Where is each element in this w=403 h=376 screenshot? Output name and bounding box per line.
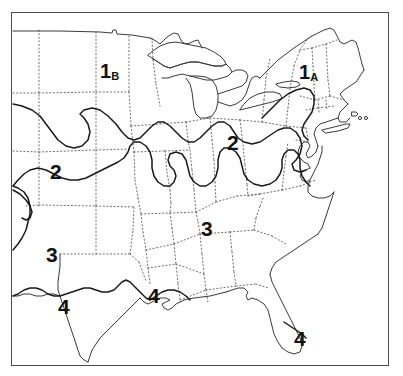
zone-number-2-east: 2	[227, 131, 239, 154]
zone-label-4-florida: 4	[294, 328, 306, 349]
zone-number-3-west: 3	[46, 243, 58, 266]
zone-label-1a: 1A	[299, 62, 318, 82]
zone-label-1b: 1B	[100, 61, 119, 81]
zone-label-2-east: 2	[227, 132, 239, 153]
zone-label-2-west: 2	[50, 161, 62, 182]
zone-label-3-west: 3	[46, 244, 58, 265]
zone-label-3-east: 3	[201, 218, 213, 239]
state-borders	[13, 30, 344, 302]
map-page: 1B 1A 2 2 3 3 4 4 4	[0, 0, 403, 376]
zone-number-4-texas: 4	[58, 295, 70, 318]
zone-label-4-gulf: 4	[148, 285, 160, 306]
map-graphic	[0, 0, 403, 376]
zone-number-3-east: 3	[201, 217, 213, 240]
zone-number-1b: 1	[100, 60, 111, 82]
zone-number-4-gulf: 4	[148, 284, 160, 307]
zone-label-4-texas: 4	[58, 296, 70, 317]
zone-suffix-1b: B	[111, 70, 119, 82]
zone-number-2-west: 2	[50, 160, 62, 183]
zone-number-4-florida: 4	[294, 327, 306, 350]
zone-suffix-1a: A	[310, 71, 318, 83]
zone-number-1a: 1	[299, 61, 310, 83]
